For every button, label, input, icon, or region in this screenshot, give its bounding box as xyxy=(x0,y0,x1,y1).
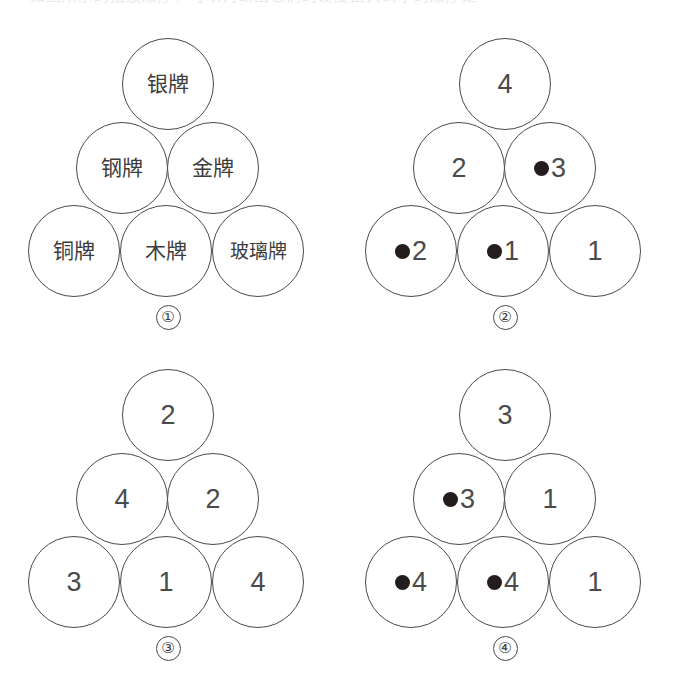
ball-content: 3 xyxy=(443,486,475,513)
ball-content: 4 xyxy=(114,486,129,513)
figure-caption-4: ④ xyxy=(337,636,673,661)
figure-1: 银牌 钢牌 金牌 铜牌 木牌 xyxy=(0,14,336,359)
ball-content: 3 xyxy=(534,155,566,182)
ball-label: 3 xyxy=(66,569,81,596)
black-dot-icon xyxy=(395,575,410,590)
cut-off-header-strip: 如图所示的摆放顺序，可以判断出它们的硬度由大到小的顺序是 xyxy=(0,0,673,12)
ball-label: 2 xyxy=(160,402,175,429)
ball-middle-right-3[interactable]: 2 xyxy=(167,453,259,545)
ball-bottom-center-4[interactable]: 4 xyxy=(457,536,549,628)
figure-3: 2 4 2 3 1 xyxy=(0,345,336,690)
figure-caption-1: ① xyxy=(0,305,336,330)
ball-content: 1 xyxy=(158,569,173,596)
ball-content: 钢牌 xyxy=(101,158,143,179)
ball-bottom-right-4[interactable]: 1 xyxy=(549,536,641,628)
ball-bottom-right-1[interactable]: 玻璃牌 xyxy=(212,205,304,297)
caption-number: ② xyxy=(493,305,518,330)
black-dot-icon xyxy=(487,244,502,259)
caption-number: ③ xyxy=(156,636,181,661)
ball-middle-left-4[interactable]: 3 xyxy=(413,453,505,545)
ball-label: 1 xyxy=(587,569,602,596)
ball-top-2[interactable]: 4 xyxy=(459,38,551,130)
ball-label: 4 xyxy=(412,569,427,596)
ball-bottom-left-1[interactable]: 铜牌 xyxy=(28,205,120,297)
figure-2: 4 2 3 2 1 xyxy=(337,14,673,359)
ball-label: 3 xyxy=(497,402,512,429)
ball-label: 1 xyxy=(504,238,519,265)
ball-top-4[interactable]: 3 xyxy=(459,369,551,461)
ball-bottom-center-2[interactable]: 1 xyxy=(457,205,549,297)
ball-content: 木牌 xyxy=(145,241,187,262)
pyramid-2: 4 2 3 2 1 xyxy=(337,14,673,304)
ball-content: 1 xyxy=(587,569,602,596)
ball-content: 2 xyxy=(205,486,220,513)
ball-label: 玻璃牌 xyxy=(230,242,287,261)
figure-caption-3: ③ xyxy=(0,636,336,661)
ball-content: 玻璃牌 xyxy=(230,242,287,261)
ball-label: 钢牌 xyxy=(101,158,143,179)
ball-label: 2 xyxy=(205,486,220,513)
figure-caption-2: ② xyxy=(337,305,673,330)
ball-bottom-right-2[interactable]: 1 xyxy=(549,205,641,297)
black-dot-icon xyxy=(487,575,502,590)
ball-label: 4 xyxy=(250,569,265,596)
ball-content: 4 xyxy=(487,569,519,596)
caption-number: ① xyxy=(156,305,181,330)
ball-label: 4 xyxy=(497,71,512,98)
ball-content: 1 xyxy=(587,238,602,265)
ball-content: 4 xyxy=(497,71,512,98)
ball-label: 2 xyxy=(451,155,466,182)
ball-content: 4 xyxy=(250,569,265,596)
cut-off-header-text: 如图所示的摆放顺序，可以判断出它们的硬度由大到小的顺序是 xyxy=(30,0,630,5)
ball-label: 2 xyxy=(412,238,427,265)
ball-label: 1 xyxy=(542,486,557,513)
caption-number: ④ xyxy=(493,636,518,661)
ball-middle-left-2[interactable]: 2 xyxy=(413,122,505,214)
ball-content: 银牌 xyxy=(147,74,189,95)
ball-label: 1 xyxy=(158,569,173,596)
ball-top-1[interactable]: 银牌 xyxy=(122,38,214,130)
pyramid-4: 3 3 1 4 4 xyxy=(337,345,673,635)
ball-content: 2 xyxy=(395,238,427,265)
ball-middle-right-2[interactable]: 3 xyxy=(504,122,596,214)
figure-4: 3 3 1 4 4 xyxy=(337,345,673,690)
ball-label: 金牌 xyxy=(192,158,234,179)
black-dot-icon xyxy=(534,161,549,176)
ball-content: 2 xyxy=(160,402,175,429)
ball-content: 3 xyxy=(66,569,81,596)
ball-middle-left-1[interactable]: 钢牌 xyxy=(76,122,168,214)
ball-content: 2 xyxy=(451,155,466,182)
ball-bottom-right-3[interactable]: 4 xyxy=(212,536,304,628)
ball-content: 1 xyxy=(542,486,557,513)
ball-bottom-left-3[interactable]: 3 xyxy=(28,536,120,628)
ball-label: 3 xyxy=(551,155,566,182)
ball-bottom-left-4[interactable]: 4 xyxy=(365,536,457,628)
ball-label: 1 xyxy=(587,238,602,265)
ball-label: 铜牌 xyxy=(53,241,95,262)
ball-top-3[interactable]: 2 xyxy=(122,369,214,461)
ball-bottom-left-2[interactable]: 2 xyxy=(365,205,457,297)
ball-label: 3 xyxy=(460,486,475,513)
pyramid-3: 2 4 2 3 1 xyxy=(0,345,336,635)
ball-bottom-center-3[interactable]: 1 xyxy=(120,536,212,628)
ball-label: 银牌 xyxy=(147,74,189,95)
black-dot-icon xyxy=(443,492,458,507)
ball-content: 3 xyxy=(497,402,512,429)
ball-content: 4 xyxy=(395,569,427,596)
ball-bottom-center-1[interactable]: 木牌 xyxy=(120,205,212,297)
ball-content: 1 xyxy=(487,238,519,265)
pyramid-1: 银牌 钢牌 金牌 铜牌 木牌 xyxy=(0,14,336,304)
ball-content: 铜牌 xyxy=(53,241,95,262)
ball-middle-right-1[interactable]: 金牌 xyxy=(167,122,259,214)
ball-middle-right-4[interactable]: 1 xyxy=(504,453,596,545)
ball-middle-left-3[interactable]: 4 xyxy=(76,453,168,545)
ball-label: 4 xyxy=(114,486,129,513)
ball-label: 4 xyxy=(504,569,519,596)
ball-content: 金牌 xyxy=(192,158,234,179)
ball-label: 木牌 xyxy=(145,241,187,262)
black-dot-icon xyxy=(395,244,410,259)
